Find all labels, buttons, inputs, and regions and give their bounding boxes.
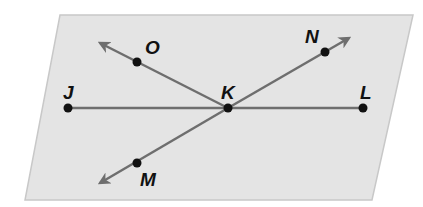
point-n (321, 48, 330, 57)
point-l (359, 104, 368, 113)
label-j: J (63, 82, 74, 103)
geometry-diagram: JKLONM (0, 0, 423, 207)
label-n: N (305, 26, 320, 47)
point-k (224, 104, 233, 113)
point-o (133, 58, 142, 67)
point-j (64, 104, 73, 113)
label-l: L (360, 82, 372, 103)
label-k: K (221, 82, 236, 103)
point-m (133, 159, 142, 168)
label-o: O (145, 37, 160, 58)
label-m: M (140, 169, 157, 190)
